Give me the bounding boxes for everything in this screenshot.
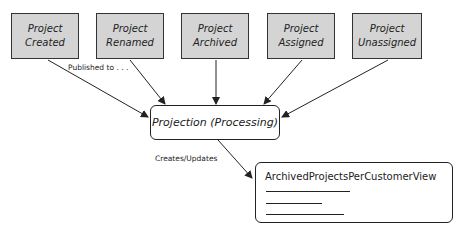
- event-project-renamed: Project Renamed: [96, 13, 164, 59]
- event-project-assigned: Project Assigned: [267, 13, 335, 59]
- view-title: ArchivedProjectsPerCustomerView: [265, 171, 436, 182]
- view-box: ArchivedProjectsPerCustomerView: [255, 162, 453, 223]
- event-label-line2: Assigned: [278, 36, 323, 50]
- event-project-created: Project Created: [11, 13, 79, 59]
- event-label-line1: Project: [28, 22, 63, 36]
- event-label-line2: Renamed: [106, 36, 154, 50]
- event-project-archived: Project Archived: [181, 13, 249, 59]
- event-label-line1: Project: [113, 22, 148, 36]
- event-label-line2: Created: [25, 36, 65, 50]
- event-label-line1: Project: [284, 22, 319, 36]
- published-to-label: Published to . . .: [68, 63, 128, 72]
- view-field-line: [266, 203, 322, 204]
- projection-box: Projection (Processing): [150, 105, 280, 140]
- creates-updates-label: Creates/Updates: [155, 154, 217, 163]
- event-label-line2: Unassigned: [358, 36, 416, 50]
- view-field-line: [266, 191, 350, 192]
- event-label-line1: Project: [370, 22, 405, 36]
- event-project-unassigned: Project Unassigned: [352, 13, 422, 59]
- view-field-line: [266, 214, 344, 215]
- event-label-line2: Archived: [193, 36, 237, 50]
- event-label-line1: Project: [198, 22, 233, 36]
- projection-title: Projection (Processing): [152, 116, 278, 129]
